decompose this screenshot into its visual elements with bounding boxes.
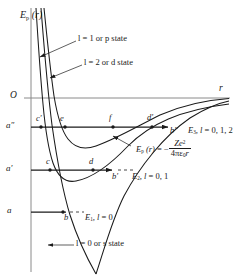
point-marker-c-prime: [39, 125, 42, 128]
point-marker-f: [111, 125, 114, 128]
origin-label: O: [10, 91, 17, 101]
point-marker-d: [91, 168, 94, 171]
point-marker-c: [48, 168, 51, 171]
point-label-f: f: [109, 113, 111, 122]
point-label-c-prime: c′: [36, 114, 42, 123]
energy-level-label-E3: E3, l = 0, 1, 2: [188, 126, 233, 136]
point-marker-d-prime: [150, 125, 153, 128]
point-label-b-prime: b′: [112, 172, 118, 181]
annotation-s-state: l = 0 or s state: [76, 239, 124, 248]
x-axis-label: r: [219, 84, 223, 94]
point-label-c: c: [46, 157, 50, 166]
figure-canvas: Ep (r) r O a″ a′ a c′ e f d′ b″ c d b′ b…: [0, 0, 233, 276]
point-marker-e: [63, 125, 66, 128]
curve-l1-p-state: [36, 8, 229, 181]
leader-line-p-state: [40, 41, 76, 57]
annotation-p-state: l = 1 or p state: [78, 34, 127, 43]
tick-label-a-double-prime: a″: [6, 121, 14, 130]
point-label-b-double-prime: b″: [170, 126, 178, 135]
point-label-e: e: [60, 114, 64, 123]
point-label-d: d: [89, 157, 93, 166]
point-label-d-prime: d′: [147, 113, 153, 122]
tick-label-a: a: [7, 206, 12, 215]
energy-level-label-E2: E2, l = 0, 1: [132, 172, 168, 182]
tick-label-a-prime: a′: [6, 164, 12, 173]
annotation-d-state: l = 2 or d state: [84, 58, 133, 67]
curve-l0-s-state: [41, 8, 96, 274]
point-label-b: b: [64, 213, 68, 222]
leader-line-formula: [113, 136, 131, 146]
energy-level-label-E1: E1, l = 0: [85, 213, 113, 223]
formula-potential-energy: Ep (r) = −Ze24πε0r: [136, 140, 191, 160]
leader-line-d-state: [50, 65, 82, 78]
y-axis-label: Ep (r): [20, 10, 42, 21]
